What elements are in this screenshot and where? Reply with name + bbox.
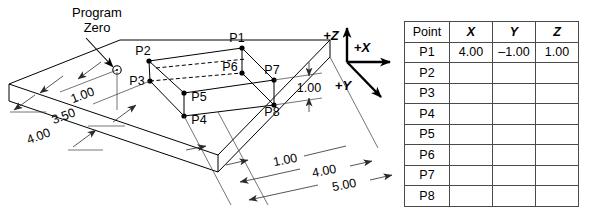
- dim-left-1-line: [78, 62, 101, 79]
- label-p6: P6: [222, 60, 237, 74]
- table-row: P6: [405, 145, 579, 166]
- cell-y[interactable]: –1.00: [493, 42, 536, 63]
- dim-left-3-line-a: [14, 95, 35, 110]
- label-p5: P5: [191, 90, 206, 104]
- dim-bottom-3-label: 5.00: [331, 176, 358, 194]
- cell-point: P1: [405, 42, 450, 63]
- table-header: Point X Y Z: [405, 22, 579, 43]
- cell-point: P3: [405, 83, 450, 104]
- cell-z[interactable]: 1.00: [536, 42, 579, 63]
- vertex-p2: [146, 58, 151, 63]
- cell-point: P2: [405, 63, 450, 84]
- dim-left-3-line-b: [73, 130, 96, 147]
- axis-y-label: +Y: [335, 78, 353, 93]
- cell-x[interactable]: [450, 165, 493, 186]
- cell-z[interactable]: [536, 165, 579, 186]
- table-row: P1 4.00 –1.00 1.00: [405, 42, 579, 63]
- table-row: P7: [405, 165, 579, 186]
- cell-point: P5: [405, 124, 450, 145]
- table-row: P8: [405, 186, 579, 207]
- dim-bottom-1-line-b: [304, 146, 346, 156]
- cell-y[interactable]: [493, 165, 536, 186]
- header-y: Y: [493, 22, 536, 43]
- cell-y[interactable]: [493, 104, 536, 125]
- dim-bottom-3-line-c: [370, 175, 392, 180]
- header-x: X: [450, 22, 493, 43]
- cell-y[interactable]: [493, 63, 536, 84]
- program-zero-annotation: Program Zero: [72, 5, 122, 74]
- dim-bottom-2-line-b: [264, 169, 300, 177]
- label-p2: P2: [135, 44, 150, 58]
- cell-x[interactable]: [450, 124, 493, 145]
- axis-x-label: +X: [354, 40, 372, 55]
- table-header-row: Point X Y Z: [405, 22, 579, 43]
- cell-x[interactable]: [450, 63, 493, 84]
- dim-bottom-1-label: 1.00: [272, 151, 299, 169]
- program-zero-line2: Zero: [84, 20, 111, 35]
- step-block: [149, 48, 276, 116]
- cell-point: P6: [405, 145, 450, 166]
- cell-y[interactable]: [493, 83, 536, 104]
- point-coordinate-table: Point X Y Z P1 4.00 –1.00 1.00 P2 P3: [404, 21, 579, 207]
- table-row: P4: [405, 104, 579, 125]
- axis-y-arrow: [347, 62, 381, 97]
- cell-x[interactable]: [450, 145, 493, 166]
- header-point: Point: [405, 22, 450, 43]
- dim-left-1-label: 1.00: [69, 84, 97, 106]
- table-body: P1 4.00 –1.00 1.00 P2 P3 P4: [405, 42, 579, 206]
- cell-y[interactable]: [493, 186, 536, 207]
- cell-z[interactable]: [536, 145, 579, 166]
- dim-bottom-2-label: 4.00: [311, 162, 338, 180]
- vertex-p1: [239, 45, 244, 50]
- dim-bottom-3-line-a: [249, 195, 272, 200]
- table-row: P3: [405, 83, 579, 104]
- cell-z[interactable]: [536, 63, 579, 84]
- header-z: Z: [536, 22, 579, 43]
- cell-x[interactable]: [450, 83, 493, 104]
- bottom-dimension-chain: 1.00 4.00 5.00: [184, 57, 392, 208]
- vertex-p6: [239, 70, 244, 75]
- table-row: P2: [405, 63, 579, 84]
- cell-z[interactable]: [536, 124, 579, 145]
- right-height-dimension: 1.00: [274, 62, 322, 112]
- left-dimension-chain: 1.00 3.50 4.00: [10, 62, 184, 150]
- cell-y[interactable]: [493, 145, 536, 166]
- dim-right-label: 1.00: [297, 81, 321, 95]
- figure-root: P1 P2 P3 P4 P5 P6 P7 P8 Program Zero 1.0…: [0, 0, 591, 222]
- cell-z[interactable]: [536, 186, 579, 207]
- dim-left-2-line-b: [113, 105, 136, 122]
- cell-y[interactable]: [493, 124, 536, 145]
- cell-z[interactable]: [536, 83, 579, 104]
- dim-left-2-line-a: [40, 76, 63, 93]
- program-zero-line1: Program: [72, 5, 122, 20]
- cell-point: P4: [405, 104, 450, 125]
- cell-z[interactable]: [536, 104, 579, 125]
- label-p7: P7: [264, 63, 279, 77]
- cell-point: P7: [405, 165, 450, 186]
- label-p4: P4: [191, 113, 206, 127]
- cell-x[interactable]: [450, 104, 493, 125]
- table-row: P5: [405, 124, 579, 145]
- dim-bottom-3-line-b: [272, 185, 318, 195]
- dim-left-3-label: 4.00: [25, 125, 53, 147]
- cell-x[interactable]: [450, 186, 493, 207]
- cell-point: P8: [405, 186, 450, 207]
- dim-left-2-label: 3.50: [50, 105, 78, 127]
- base-plate: [9, 40, 330, 172]
- vertex-p5: [181, 90, 186, 95]
- cell-x[interactable]: 4.00: [450, 42, 493, 63]
- dim-bottom-2-line-c: [350, 161, 372, 166]
- axis-z-label: +Z: [323, 28, 340, 43]
- dim-bottom-2-line-a: [240, 177, 264, 182]
- label-p1: P1: [229, 31, 244, 45]
